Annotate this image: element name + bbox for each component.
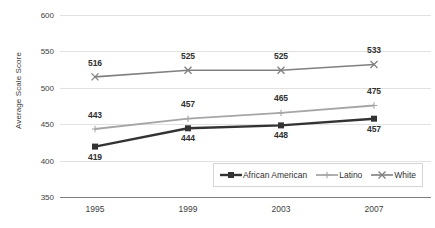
data-label-white-2003: 525 bbox=[274, 51, 288, 61]
chart-legend: African American Latino White bbox=[213, 163, 423, 187]
legend-marker-square-icon bbox=[220, 170, 242, 180]
plot-area bbox=[0, 0, 435, 228]
data-label-latino-2007: 475 bbox=[367, 86, 381, 96]
legend-marker-plus-icon bbox=[316, 170, 338, 180]
data-label-african-american-1995: 419 bbox=[88, 152, 102, 162]
data-label-african-american-2003: 448 bbox=[274, 130, 288, 140]
data-label-latino-1999: 457 bbox=[181, 99, 195, 109]
legend-label-african-american: African American bbox=[243, 170, 307, 180]
chart-container: Average Scale Score 600 550 500 450 400 … bbox=[0, 0, 435, 228]
data-label-white-2007: 533 bbox=[367, 45, 381, 55]
data-label-african-american-1999: 444 bbox=[181, 133, 195, 143]
legend-label-latino: Latino bbox=[339, 170, 362, 180]
legend-marker-x-icon bbox=[371, 170, 393, 180]
data-label-african-american-2007: 457 bbox=[367, 124, 381, 134]
series-african-american bbox=[92, 116, 377, 150]
data-label-latino-2003: 465 bbox=[274, 93, 288, 103]
data-label-white-1995: 516 bbox=[88, 58, 102, 68]
data-label-latino-1995: 443 bbox=[88, 110, 102, 120]
legend-item-african-american[interactable]: African American bbox=[220, 170, 307, 180]
legend-item-white[interactable]: White bbox=[371, 170, 416, 180]
data-label-white-1999: 525 bbox=[181, 51, 195, 61]
legend-label-white: White bbox=[394, 170, 416, 180]
legend-item-latino[interactable]: Latino bbox=[316, 170, 362, 180]
series-white bbox=[92, 61, 378, 80]
